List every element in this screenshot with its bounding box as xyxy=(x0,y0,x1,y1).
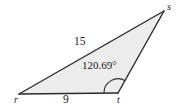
vertex-label-t: t xyxy=(117,95,120,105)
vertex-label-r: r xyxy=(14,95,18,105)
vertex-label-s: s xyxy=(167,2,171,12)
side-label-rt: 9 xyxy=(63,94,69,106)
triangle-graphic xyxy=(0,0,180,109)
angle-label-t: 120.69° xyxy=(82,60,117,71)
side-label-rs: 15 xyxy=(74,36,86,48)
triangle-figure: 15 9 120.69° r t s xyxy=(0,0,180,109)
